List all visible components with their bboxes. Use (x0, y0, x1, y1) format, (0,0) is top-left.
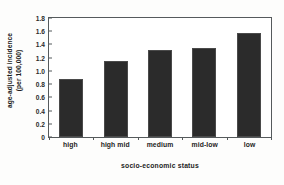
x-axis-tick-label: mid-low (182, 141, 227, 148)
x-axis-tick-mark (271, 137, 272, 140)
y-axis-tick-label: 0.8 (36, 81, 49, 88)
y-axis-tick-label: 0.6 (36, 94, 49, 101)
bar-series (49, 18, 271, 137)
y-axis-tick-label: 1.0 (36, 67, 49, 74)
y-axis-tick-label: 0.4 (36, 107, 49, 114)
x-axis-tick-label: high (48, 141, 93, 148)
plot-area: 00.20.40.60.81.01.21.41.61.8 (48, 17, 272, 138)
chart-figure: age-adjusted incidence (per 100,000) 00.… (0, 0, 284, 185)
bar (148, 50, 172, 137)
y-axis-tick-label: 1.2 (36, 54, 49, 61)
x-axis-tick-mark (93, 137, 94, 140)
x-axis-tick-label: low (227, 141, 272, 148)
x-axis-tick-mark (227, 137, 228, 140)
bar (192, 48, 216, 137)
x-axis-tick-label: medium (138, 141, 183, 148)
x-axis-tick-labels: highhigh midmediummid-lowlow (48, 141, 272, 148)
y-axis-title-line-2: (per 100,000) (15, 32, 24, 107)
bar-slot (93, 18, 137, 137)
y-axis-title-line-1: age-adjusted incidence (7, 32, 16, 107)
bar-slot (49, 18, 93, 137)
y-axis-tick-label: 1.6 (36, 28, 49, 35)
y-axis-tick-label: 0.2 (36, 120, 49, 127)
x-axis-tick-mark (138, 137, 139, 140)
x-axis-title: socio-economic status (48, 162, 272, 169)
bar (104, 61, 128, 137)
y-axis-tick-label: 1.4 (36, 41, 49, 48)
y-axis-tick-label: 1.8 (36, 15, 49, 22)
x-axis-tick-mark (49, 137, 50, 140)
y-axis-title: age-adjusted incidence (per 100,000) (0, 0, 30, 140)
x-axis-tick-mark (182, 137, 183, 140)
bar (59, 79, 83, 137)
bar-slot (227, 18, 271, 137)
y-axis-tick-label: 0 (41, 134, 49, 141)
bar-slot (182, 18, 226, 137)
x-axis-tick-label: high mid (93, 141, 138, 148)
bar-slot (138, 18, 182, 137)
bar (237, 33, 261, 137)
